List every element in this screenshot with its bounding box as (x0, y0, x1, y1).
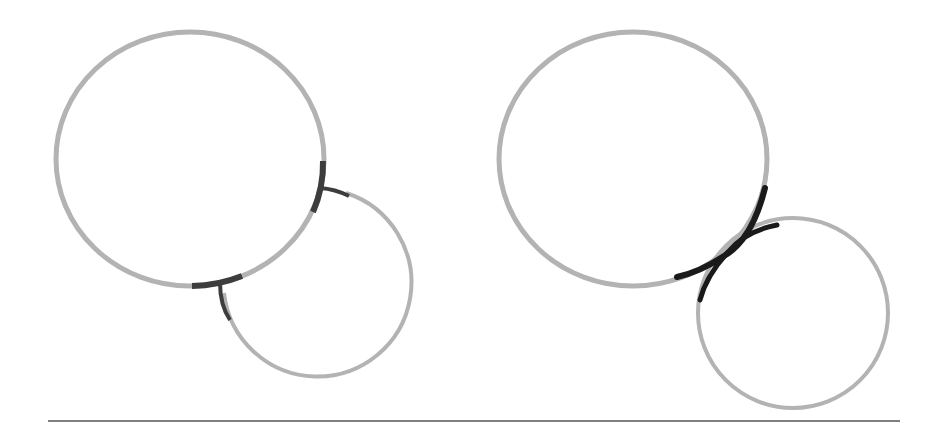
left-small-circle (224, 193, 411, 377)
diagram-canvas (0, 0, 940, 431)
right-big-circle (499, 32, 767, 286)
right-small-circle (698, 218, 888, 408)
left-junction-lower-arc (192, 276, 242, 286)
right-figure (499, 32, 888, 408)
left-junction-upper-branch (320, 188, 349, 196)
left-big-circle (56, 32, 324, 286)
left-figure (56, 32, 411, 377)
diagram-svg (0, 0, 940, 431)
